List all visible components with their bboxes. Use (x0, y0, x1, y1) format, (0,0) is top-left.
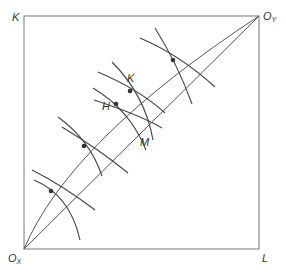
edgeworth-box-diagram: K OY OX L H K M (0, 0, 286, 270)
tangency-dot (171, 58, 176, 63)
tangency-dot (49, 189, 54, 194)
diagonal-line (24, 16, 259, 249)
label-point-m: M (140, 136, 150, 148)
label-origin-x: OX (8, 252, 22, 265)
label-point-h: H (102, 100, 110, 112)
label-origin-y: OY (263, 10, 278, 23)
label-l-axis: L (262, 252, 268, 264)
tangency-dot (82, 144, 87, 149)
label-k-axis: K (12, 11, 20, 23)
label-point-k: K (127, 72, 135, 84)
tangency-dot-h (114, 102, 119, 107)
isoquants (32, 28, 215, 240)
tangency-dot-k (128, 89, 133, 94)
